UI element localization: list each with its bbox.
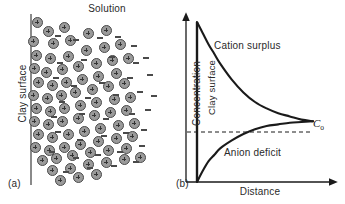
anion-minus-dash-icon <box>103 118 109 120</box>
ion-layer <box>0 0 172 204</box>
cation-plus-circle-icon <box>43 26 54 37</box>
ion-distribution-figure: Solution Clay surface (a) <box>0 0 345 204</box>
cation-plus-circle-icon <box>101 157 112 168</box>
cation-plus-circle-icon <box>55 175 66 186</box>
cation-plus-circle-icon <box>47 80 58 91</box>
cation-plus-circle-icon <box>123 53 134 64</box>
anion-minus-dash-icon <box>73 39 79 41</box>
anion-minus-dash-icon <box>127 77 133 79</box>
cation-plus-circle-icon <box>113 120 124 131</box>
cation-plus-circle-icon <box>48 38 59 49</box>
anion-minus-dash-icon <box>49 151 55 153</box>
cation-plus-circle-icon <box>31 50 42 61</box>
cation-plus-circle-icon <box>29 116 40 127</box>
anion-minus-dash-icon <box>63 171 69 173</box>
cation-plus-circle-icon <box>111 133 122 144</box>
anion-minus-dash-icon <box>115 36 121 38</box>
anion-minus-dash-icon <box>145 109 151 111</box>
cation-plus-circle-icon <box>81 45 92 56</box>
cation-plus-circle-icon <box>31 103 42 114</box>
cation-plus-circle-icon <box>29 63 40 74</box>
cation-plus-circle-icon <box>95 123 106 134</box>
anion-minus-dash-icon <box>151 95 157 97</box>
anion-minus-dash-icon <box>99 82 105 84</box>
cation-plus-circle-icon <box>89 110 100 121</box>
anion-minus-dash-icon <box>111 165 117 167</box>
anion-deficit-annotation: Anion deficit <box>224 147 281 158</box>
co-label: Co <box>313 117 324 132</box>
anion-minus-dash-icon <box>55 131 61 133</box>
clay-surface-label-b: Clay surface <box>206 45 217 131</box>
cation-plus-circle-icon <box>119 78 130 89</box>
cation-plus-circle-icon <box>59 22 70 33</box>
cation-plus-circle-icon <box>28 36 39 47</box>
anion-minus-dash-icon <box>59 101 65 103</box>
anion-minus-dash-icon <box>53 77 59 79</box>
anion-minus-dash-icon <box>77 139 83 141</box>
cation-plus-circle-icon <box>115 39 126 50</box>
cation-plus-circle-icon <box>56 90 67 101</box>
cation-plus-circle-icon <box>33 77 44 88</box>
cation-plus-circle-icon <box>79 126 90 137</box>
cation-plus-circle-icon <box>33 129 44 140</box>
cation-plus-circle-icon <box>101 25 112 36</box>
cation-plus-circle-icon <box>85 147 96 158</box>
cation-plus-circle-icon <box>47 132 58 143</box>
cation-plus-circle-icon <box>103 145 114 156</box>
cation-plus-circle-icon <box>37 155 48 166</box>
cation-plus-circle-icon <box>87 84 98 95</box>
cation-plus-circle-icon <box>77 74 88 85</box>
cation-plus-circle-icon <box>83 28 94 39</box>
anion-minus-dash-icon <box>85 97 91 99</box>
anion-minus-dash-icon <box>141 129 147 131</box>
cation-plus-circle-icon <box>32 17 43 28</box>
cation-plus-circle-icon <box>43 119 54 130</box>
cation-plus-circle-icon <box>91 58 102 69</box>
anion-minus-dash-icon <box>143 57 149 59</box>
panel-a-ion-diagram: Solution Clay surface (a) <box>0 0 172 204</box>
cation-plus-circle-icon <box>70 87 81 98</box>
cation-plus-circle-icon <box>105 107 116 118</box>
x-axis-label: Distance <box>200 186 320 197</box>
cation-plus-circle-icon <box>125 92 136 103</box>
cation-plus-circle-icon <box>51 153 62 164</box>
anion-minus-dash-icon <box>71 85 77 87</box>
anion-minus-dash-icon <box>73 157 79 159</box>
anion-minus-dash-icon <box>117 151 123 153</box>
cation-plus-circle-icon <box>61 77 72 88</box>
anion-minus-dash-icon <box>137 91 143 93</box>
anion-minus-dash-icon <box>139 145 145 147</box>
cation-plus-circle-icon <box>91 169 102 180</box>
y-axis-label: Concentration <box>191 39 202 149</box>
panel-a-tag: (a) <box>8 178 21 189</box>
anion-minus-dash-icon <box>87 167 93 169</box>
cation-plus-circle-icon <box>73 61 84 72</box>
cation-plus-circle-icon <box>28 90 39 101</box>
anion-minus-dash-icon <box>147 74 153 76</box>
cation-plus-circle-icon <box>67 150 78 161</box>
cation-plus-circle-icon <box>91 97 102 108</box>
cation-plus-circle-icon <box>73 172 84 183</box>
anion-minus-dash-icon <box>55 35 61 37</box>
anion-minus-dash-icon <box>95 154 101 156</box>
anion-minus-dash-icon <box>123 132 129 134</box>
anion-minus-dash-icon <box>129 113 135 115</box>
anion-minus-dash-icon <box>109 56 115 58</box>
cation-plus-circle-icon <box>45 53 56 64</box>
cation-plus-circle-icon <box>57 116 68 127</box>
anion-minus-dash-icon <box>97 37 103 39</box>
cation-plus-circle-icon <box>45 106 56 117</box>
cation-plus-circle-icon <box>42 93 53 104</box>
anion-minus-dash-icon <box>101 135 107 137</box>
cation-plus-circle-icon <box>41 67 52 78</box>
cation-plus-circle-icon <box>59 103 70 114</box>
anion-minus-dash-icon <box>57 62 63 64</box>
anion-minus-dash-icon <box>131 45 137 47</box>
anion-minus-dash-icon <box>133 161 139 163</box>
cation-plus-circle-icon <box>63 51 74 62</box>
cation-plus-circle-icon <box>57 64 68 75</box>
cation-plus-circle-icon <box>93 136 104 147</box>
cation-plus-circle-icon <box>75 100 86 111</box>
cation-plus-circle-icon <box>99 42 110 53</box>
cation-plus-circle-icon <box>111 68 122 79</box>
